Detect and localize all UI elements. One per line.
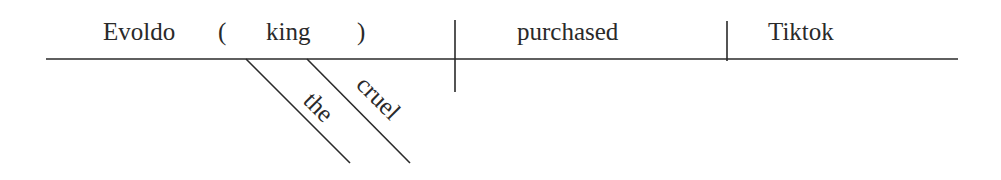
subject-word: Evoldo (103, 18, 175, 45)
modifier-cruel: cruel (351, 70, 405, 124)
verb-word: purchased (517, 18, 619, 45)
appositive-close-paren: ) (357, 18, 365, 46)
object-word: Tiktok (768, 18, 834, 45)
sentence-diagram: Evoldo ( king ) purchased Tiktok the cru… (0, 0, 1001, 180)
modifier-the: the (298, 86, 339, 127)
appositive-open-paren: ( (218, 18, 226, 46)
appositive-word: king (266, 18, 311, 45)
